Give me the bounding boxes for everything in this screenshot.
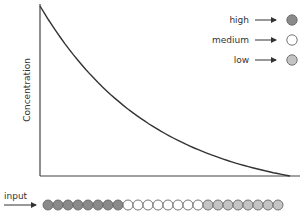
y-axis-label: Concentration	[22, 58, 32, 122]
input-circle-high	[83, 200, 93, 210]
input-circle-high	[53, 200, 63, 210]
input-circle-low	[243, 200, 253, 210]
input-circle-high	[103, 200, 113, 210]
input-circle-medium	[153, 200, 163, 210]
input-circle-low	[213, 200, 223, 210]
input-circle-high	[73, 200, 83, 210]
legend-label-high: high	[229, 15, 249, 25]
input-circle-medium	[163, 200, 173, 210]
legend-label-medium: medium	[212, 35, 249, 45]
input-sequence	[43, 200, 283, 210]
input-circle-medium	[183, 200, 193, 210]
legend-swatch-high	[287, 15, 297, 25]
input-circle-high	[113, 200, 123, 210]
input-circle-low	[223, 200, 233, 210]
input-circle-medium	[143, 200, 153, 210]
input-circle-low	[203, 200, 213, 210]
concentration-diagram: Concentration highmediumlow input	[0, 0, 305, 221]
input-circle-low	[253, 200, 263, 210]
legend: highmediumlow	[212, 15, 297, 65]
legend-swatch-medium	[287, 35, 297, 45]
input-circle-low	[273, 200, 283, 210]
input-circle-low	[233, 200, 243, 210]
legend-label-low: low	[234, 55, 249, 65]
input-label: input	[4, 191, 28, 201]
input-circle-high	[43, 200, 53, 210]
input-circle-medium	[193, 200, 203, 210]
input-circle-high	[63, 200, 73, 210]
input-circle-medium	[133, 200, 143, 210]
input-circle-high	[93, 200, 103, 210]
input-circle-medium	[123, 200, 133, 210]
decay-curve	[40, 6, 290, 176]
input-circle-low	[263, 200, 273, 210]
input-circle-medium	[173, 200, 183, 210]
legend-swatch-low	[287, 55, 297, 65]
